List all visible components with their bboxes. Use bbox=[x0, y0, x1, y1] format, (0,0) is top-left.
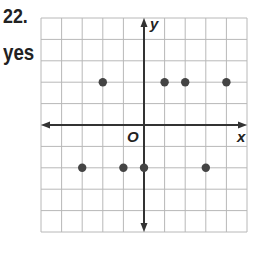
y-axis-up-arrow-icon bbox=[141, 18, 148, 27]
x-axis-label: x bbox=[236, 128, 246, 145]
data-point bbox=[181, 78, 189, 86]
data-point bbox=[99, 78, 107, 86]
data-point bbox=[202, 164, 210, 172]
data-point bbox=[78, 164, 86, 172]
data-point bbox=[160, 78, 168, 86]
x-axis-left-arrow-icon bbox=[41, 122, 50, 129]
data-point bbox=[222, 78, 230, 86]
axes bbox=[41, 18, 247, 232]
origin-label: O bbox=[127, 128, 139, 145]
data-point bbox=[119, 164, 127, 172]
y-axis-down-arrow-icon bbox=[141, 223, 148, 232]
data-point bbox=[140, 164, 148, 172]
y-axis-label: y bbox=[149, 15, 159, 32]
coordinate-plane: x y O bbox=[0, 0, 269, 263]
